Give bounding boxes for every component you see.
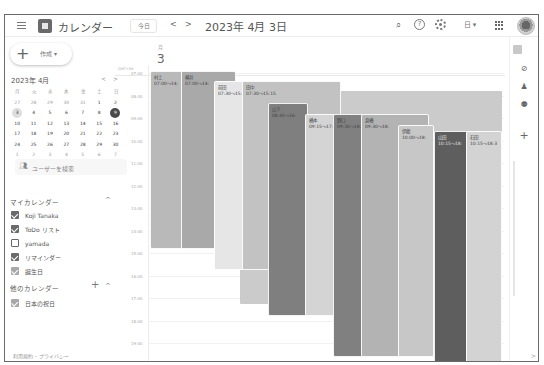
calendar-item-label: yamada [25,240,49,247]
time-label: 07:00 [131,71,143,76]
current-date-title: 2023年 4月 3日 [205,18,287,34]
event-block[interactable]: 石田10:15～18:3 [466,131,502,362]
checkbox[interactable] [11,225,19,233]
mini-calendar-prev[interactable]: < [101,75,106,82]
mini-calendar-day[interactable]: 29 [91,140,107,151]
mini-calendar-day[interactable]: 3 [9,108,25,119]
apps-grid-icon[interactable] [495,21,504,30]
time-label: 10:00 [131,139,143,144]
today-button[interactable]: 今日 [130,19,157,33]
mini-calendar-day[interactable]: 26 [42,140,58,151]
mini-calendar-day[interactable]: 24 [9,140,25,151]
event-time: 07:00～14: [154,80,178,86]
next-day-button[interactable]: > [185,20,192,29]
mini-calendar-day[interactable]: 23 [107,129,123,140]
checkbox[interactable] [11,299,19,307]
menu-icon[interactable] [17,22,26,29]
mini-calendar-day[interactable]: 27 [58,140,74,151]
calendar-item-todo[interactable]: ToDo リスト [11,224,60,234]
add-icon[interactable]: + [519,131,529,141]
mini-calendar-day[interactable]: 30 [58,98,74,109]
mini-calendar-day[interactable]: 10 [9,119,25,130]
mini-calendar-day[interactable]: 4 [25,108,41,119]
mini-calendar-day[interactable]: 7 [75,108,91,119]
time-label: 18:00 [131,319,143,324]
mini-calendar-day[interactable]: 6 [58,108,74,119]
keep-icon[interactable] [513,45,522,54]
event-time: 09:15～17: [309,123,333,129]
mini-calendar-day[interactable]: 12 [42,119,58,130]
maps-icon[interactable]: ⚉ [519,100,529,110]
calendar-item-japan-holidays[interactable]: 日本の祝日 [11,298,55,308]
mini-calendar-day[interactable]: 5 [42,108,58,119]
app-title: カレンダー [58,19,113,35]
settings-icon[interactable] [435,19,446,30]
event-block[interactable]: 山田10:15～18: [434,131,468,362]
mini-calendar-next[interactable]: > [113,75,118,82]
mini-calendar-day[interactable]: 16 [107,119,123,130]
view-switch-button[interactable]: 日 ▾ [456,19,484,32]
day-number[interactable]: 3 [157,52,165,66]
week-row: 10111213141516 [9,119,124,130]
chevron-up-icon[interactable]: ^ [105,196,111,204]
expand-side-panel-button[interactable]: > [531,352,536,359]
tasks-icon[interactable]: ⊘ [519,64,529,74]
avatar[interactable] [517,17,535,35]
create-button[interactable]: + 作成 ▾ [10,43,72,65]
mini-calendar-day[interactable]: 9 [107,108,123,119]
mini-calendar-day[interactable]: 8 [91,108,107,119]
calendar-item-label: ToDo リスト [25,225,60,234]
mini-calendar-grid: 月 火 水 木 金 土 日 27282930311234567891011121… [9,87,124,161]
mini-calendar-day[interactable]: 22 [91,129,107,140]
event-time: 08:45～16: [272,112,296,118]
checkbox[interactable] [11,267,19,275]
event-time: 09:30～18: [365,123,389,129]
search-icon[interactable]: ⌕ [396,20,401,31]
checkbox[interactable] [11,239,19,247]
prev-day-button[interactable]: < [170,20,177,29]
mini-calendar-day[interactable]: 17 [9,129,25,140]
event-block[interactable]: 山下08:45～16: [268,103,308,316]
event-block[interactable]: 村上07:00～14: [150,71,183,249]
mini-calendar-day[interactable]: 31 [75,98,91,109]
mini-calendar-day[interactable]: 28 [25,98,41,109]
mini-calendar-day[interactable]: 25 [25,140,41,151]
mini-calendar-day[interactable]: 20 [58,129,74,140]
checkbox[interactable] [11,253,19,261]
mini-calendar-day[interactable]: 30 [107,140,123,151]
footer-links[interactable]: 利用規約 – プライバシー [13,352,69,359]
my-calendars-heading[interactable]: マイカレンダー [10,197,59,207]
user-search-placeholder: ユーザーを検索 [32,164,74,173]
mini-calendar-day[interactable]: 11 [25,119,41,130]
weekday-label: 土 [91,87,107,98]
mini-calendar-day[interactable]: 27 [9,98,25,109]
event-time: 10:15～18: [438,140,462,146]
contacts-icon[interactable]: ♟ [519,82,529,92]
mini-calendar-day[interactable]: 14 [75,119,91,130]
mini-calendar-day[interactable]: 19 [42,129,58,140]
event-time: 07:30～15: [218,90,242,96]
add-calendar-icon[interactable]: + [91,279,99,290]
calendar-logo-icon [38,19,52,33]
calendar-item-koji-tanaka[interactable]: Koji Tanaka [11,210,58,220]
other-calendars-heading[interactable]: 他のカレンダー [10,283,59,293]
event-block[interactable]: 伊藤10:00～18: [398,125,434,357]
weekday-label: 月 [9,87,25,98]
mini-calendar-day[interactable]: 15 [91,119,107,130]
help-icon[interactable]: ? [414,19,425,30]
mini-calendar-day[interactable]: 29 [42,98,58,109]
mini-calendar-day[interactable]: 1 [91,98,107,109]
scrollbar[interactable] [513,161,515,296]
chevron-up-icon[interactable]: ^ [105,282,111,290]
calendar-item-birthdays[interactable]: 誕生日 [11,266,43,276]
mini-calendar-day[interactable]: 28 [75,140,91,151]
mini-calendar-day[interactable]: 21 [75,129,91,140]
mini-calendar-day[interactable]: 13 [58,119,74,130]
checkbox[interactable] [11,211,19,219]
calendar-item-label: 誕生日 [25,267,43,276]
calendar-item-reminders[interactable]: リマインダー [11,252,61,262]
calendar-item-yamada[interactable]: yamada [11,238,49,248]
mini-calendar-day[interactable]: 18 [25,129,41,140]
mini-calendar-day[interactable]: 2 [107,98,123,109]
time-label: 12:00 [131,184,143,189]
